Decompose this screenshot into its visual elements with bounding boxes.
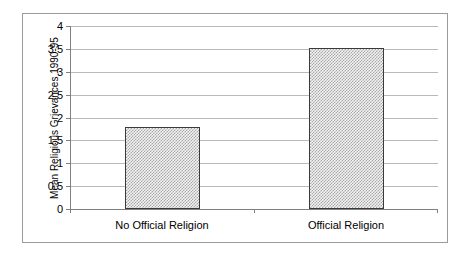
y-axis-tick <box>66 118 70 119</box>
y-axis-tick-label: 1 <box>57 158 63 169</box>
y-axis-tick <box>66 163 70 164</box>
x-axis-tick <box>70 209 71 213</box>
y-axis-tick <box>66 72 70 73</box>
y-axis-tick-label: 3.5 <box>48 43 63 54</box>
y-axis-tick <box>66 140 70 141</box>
bar <box>309 48 384 209</box>
y-axis-tick-label: 0.5 <box>48 181 63 192</box>
x-axis-category-label: Official Religion <box>308 219 384 231</box>
y-axis-tick <box>66 49 70 50</box>
y-axis-tick-label: 3 <box>57 66 63 77</box>
y-axis-tick-label: 4 <box>57 21 63 32</box>
y-axis-tick-label: 2 <box>57 112 63 123</box>
y-axis-tick-label: 2.5 <box>48 89 63 100</box>
y-axis-tick <box>66 26 70 27</box>
x-axis-category-label: No Official Religion <box>115 219 208 231</box>
plot-area: 00.511.522.533.54 No Official ReligionOf… <box>70 26 438 209</box>
y-axis-tick-label: 1.5 <box>48 135 63 146</box>
chart-frame: Mean Religious Grievances 1990-95 00.511… <box>22 13 448 243</box>
y-axis-tick <box>66 186 70 187</box>
y-axis-line <box>70 26 71 209</box>
gridline <box>70 26 438 27</box>
x-axis-tick <box>437 209 438 213</box>
y-axis-tick-label: 0 <box>57 204 63 215</box>
y-axis-tick <box>66 95 70 96</box>
x-axis-tick <box>254 209 255 213</box>
bar <box>125 127 200 209</box>
